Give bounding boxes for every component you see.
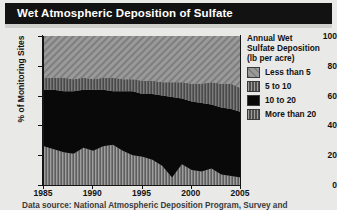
figure-container: Wet Atmospheric Deposition of Sulfate [0,0,337,210]
x-tick-label: 1995 [122,188,162,198]
legend-item-label: 10 to 20 [265,95,296,105]
y-tick-mark [38,155,42,156]
legend-item-1[interactable]: 5 to 10 [247,81,335,92]
legend-item-label: Less than 5 [265,67,311,77]
x-tick-mark [240,185,241,189]
data-source-note: Data source: National Atmospheric Deposi… [22,201,337,210]
chart-title-bar: Wet Atmospheric Deposition of Sulfate [5,3,332,24]
title-underband [5,24,332,28]
legend-title-line-1: Annual Wet [247,33,335,43]
x-tick-label: 2005 [220,188,260,198]
y-axis-label: % of Monitoring Sites [16,14,26,144]
x-tick-label: 1990 [72,188,112,198]
legend-swatch-solid-icon [247,95,260,106]
y-axis-line [42,35,43,186]
legend-item-2[interactable]: 10 to 20 [247,95,335,106]
legend-item-0[interactable]: Less than 5 [247,67,335,78]
legend-swatch-vertical-bars-icon [247,81,260,92]
x-tick-mark [142,185,143,189]
x-tick-label: 1985 [23,188,63,198]
legend-title: Annual Wet Sulfate Deposition (lb per ac… [247,33,335,64]
stacked-area-plot [43,36,241,185]
y-tick-mark [38,36,42,37]
x-tick-label: 2000 [171,188,211,198]
area-series-svg [44,36,241,185]
y-tick-label: 20 [299,150,337,160]
y-tick-label: 40 [299,120,337,130]
x-tick-mark [191,185,192,189]
chart-legend: Annual Wet Sulfate Deposition (lb per ac… [247,33,335,120]
legend-item-label: 5 to 10 [265,81,291,91]
legend-title-line-2: Sulfate Deposition [247,43,335,53]
x-tick-mark [43,185,44,189]
legend-title-line-3: (lb per acre) [247,53,335,63]
y-tick-label: 0 [299,180,337,190]
x-tick-mark [92,185,93,189]
y-tick-mark [38,125,42,126]
legend-swatch-vertical-bars-icon [247,109,260,120]
legend-swatch-diagonal-hatch-icon [247,67,260,78]
y-tick-mark [38,185,42,186]
page-title: Wet Atmospheric Deposition of Sulfate [17,7,233,19]
legend-item-label: More than 20 [265,109,316,119]
y-tick-mark [38,96,42,97]
right-axis-line [240,35,241,186]
y-tick-mark [38,66,42,67]
legend-item-3[interactable]: More than 20 [247,109,335,120]
legend-items: Less than 55 to 1010 to 20More than 20 [247,67,335,120]
